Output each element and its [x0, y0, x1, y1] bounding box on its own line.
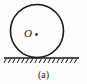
ground-hatch-mark	[52, 58, 55, 63]
ground-hatch-mark	[4, 58, 7, 63]
ground-hatch-mark	[17, 58, 20, 63]
figure-panel-a: O (a)	[0, 0, 87, 84]
ground-hatch-mark	[30, 58, 33, 63]
ground-hatch-mark	[26, 58, 29, 63]
ground-hatch-mark	[74, 58, 77, 63]
ground-hatch-mark	[21, 58, 24, 63]
ground-hatch-mark	[57, 58, 60, 63]
ground-hatch-mark	[35, 58, 38, 63]
center-point-dot	[35, 33, 38, 36]
ground-hatch-mark	[44, 58, 47, 63]
center-label-O: O	[24, 28, 32, 39]
ground-hatch-group	[4, 58, 77, 63]
ground-hatch-mark	[48, 58, 51, 63]
ground-hatch-mark	[13, 58, 16, 63]
ground-hatch-mark	[8, 58, 11, 63]
ground-hatch-mark	[66, 58, 69, 63]
ground-hatch-mark	[70, 58, 73, 63]
disk-outline	[11, 5, 64, 58]
figure-caption: (a)	[0, 69, 87, 81]
ground-hatch-mark	[39, 58, 42, 63]
ground-hatch-mark	[61, 58, 64, 63]
